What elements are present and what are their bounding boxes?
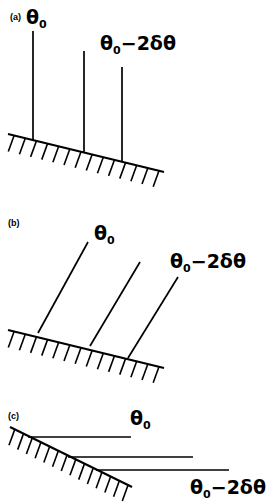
hatch-mark (53, 342, 59, 358)
label-tail: −2δθ (191, 250, 246, 272)
label-theta-0: θ0 (94, 222, 115, 247)
hatch-mark (105, 477, 111, 493)
hatch-mark (109, 356, 115, 372)
label-theta-0: θ0 (130, 407, 151, 432)
panel-c: (c)θ0θ0−2δθ (8, 407, 266, 501)
label-tail: −2δθ (211, 476, 266, 498)
hatch-mark (53, 451, 59, 467)
hatch-mark (131, 165, 137, 181)
hatch-mark (97, 353, 103, 369)
hatch-mark (142, 364, 148, 380)
label-theta-0-minus-2-delta-theta: θ0−2δθ (190, 476, 266, 501)
hatch-mark (64, 345, 70, 361)
hatch-mark (19, 334, 25, 350)
hatch-mark (122, 485, 128, 501)
hatch-mark (19, 138, 25, 154)
hatch-mark (97, 157, 103, 173)
label-base: θ (94, 222, 107, 244)
hatch-mark (35, 442, 41, 458)
hatch-mark (120, 163, 126, 179)
label-base: θ (190, 476, 203, 498)
hatch-mark (8, 331, 14, 347)
hatch-mark (86, 350, 92, 366)
label-subscript: 0 (107, 234, 115, 247)
label-base: θ (130, 407, 143, 429)
hatch-mark (131, 361, 137, 377)
label-base: θ (100, 32, 113, 54)
hatch-mark (8, 135, 14, 151)
ray-middle (90, 262, 140, 346)
panel-tag: (c) (8, 411, 19, 421)
hatch-mark (120, 359, 126, 375)
hatch-mark (79, 464, 85, 480)
hatch-mark (42, 144, 48, 160)
diagram-canvas: (a)θ0θ0−2δθ(b)θ0θ0−2δθ(c)θ0θ0−2δθ (0, 0, 268, 503)
hatch-mark (142, 168, 148, 184)
label-subscript: 0 (39, 18, 47, 31)
label-theta-0: θ0 (26, 6, 47, 31)
panel-b: (b)θ0θ0−2δθ (8, 218, 246, 383)
label-theta-0-minus-2-delta-theta: θ0−2δθ (170, 250, 246, 275)
panel-tag: (b) (8, 218, 20, 228)
label-subscript: 0 (143, 419, 151, 432)
label-base: θ (170, 250, 183, 272)
hatch-mark (153, 171, 159, 187)
hatch-mark (70, 459, 76, 475)
hatch-mark (86, 154, 92, 170)
hatch-mark (44, 447, 50, 463)
hatch-mark (9, 429, 15, 445)
label-theta-0-minus-2-delta-theta: θ0−2δθ (100, 32, 176, 57)
hatch-mark (42, 340, 48, 356)
hatch-mark (53, 146, 59, 162)
hatch-mark (114, 481, 120, 497)
hatch-mark (61, 455, 67, 471)
ray-theta-0 (38, 242, 88, 333)
hatch-mark (87, 468, 93, 484)
hatch-mark (109, 160, 115, 176)
hatch-mark (18, 434, 24, 450)
hatch-mark (31, 141, 37, 157)
hatch-mark (75, 152, 81, 168)
hatch-mark (153, 367, 159, 383)
panel-tag: (a) (10, 12, 21, 22)
panel-a: (a)θ0θ0−2δθ (8, 6, 176, 187)
label-base: θ (26, 6, 39, 28)
hatch-mark (26, 438, 32, 454)
hatch-mark (96, 472, 102, 488)
label-tail: −2δθ (121, 32, 176, 54)
hatch-mark (75, 348, 81, 364)
hatch-mark (64, 149, 70, 165)
hatch-mark (31, 337, 37, 353)
figure-root: (a)θ0θ0−2δθ(b)θ0θ0−2δθ(c)θ0θ0−2δθ (0, 0, 268, 503)
ray-theta-0-minus-2-delta-theta (128, 277, 178, 358)
